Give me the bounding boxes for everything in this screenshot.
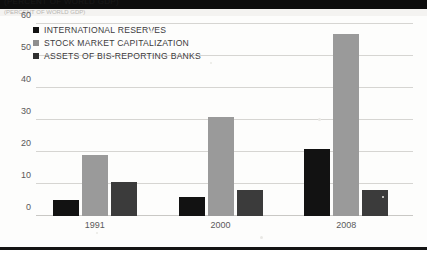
legend-item: INTERNATIONAL RESERVES (33, 24, 201, 35)
bar (304, 149, 330, 216)
scan-speckle (96, 232, 98, 234)
y-tick-label-30: 30 (21, 106, 31, 116)
y-tick-label-10: 10 (21, 170, 31, 180)
legend-swatch-icon (33, 53, 39, 59)
scan-speckle (260, 236, 263, 239)
legend-label: ASSETS OF BIS-REPORTING BANKS (44, 51, 201, 61)
legend-label: INTERNATIONAL RESERVES (44, 25, 166, 35)
legend-swatch-icon (33, 27, 39, 33)
legend-item: ASSETS OF BIS-REPORTING BANKS (33, 50, 201, 61)
legend-label: STOCK MARKET CAPITALIZATION (44, 38, 189, 48)
chart-figure: (PERCENT OF WORLD GDP) (PERCENT OF WORLD… (0, 0, 427, 254)
bar (333, 34, 359, 216)
chart-legend: INTERNATIONAL RESERVESSTOCK MARKET CAPIT… (33, 24, 201, 61)
bar (179, 197, 205, 216)
bar (237, 190, 263, 216)
x-tick-label-1991: 1991 (85, 220, 105, 230)
y-tick-label-60: 60 (21, 10, 31, 20)
figure-caption-partial: (PERCENT OF WORLD GDP) (0, 9, 427, 16)
figure-bottom-padding (0, 250, 427, 254)
y-tick-label-20: 20 (21, 138, 31, 148)
cut-off-title-band: (PERCENT OF WORLD GDP) (0, 0, 427, 9)
bar (111, 182, 137, 216)
bar (82, 155, 108, 216)
cut-off-title-text: (PERCENT OF WORLD GDP) (4, 0, 119, 6)
y-tick-label-0: 0 (26, 202, 31, 212)
y-tick-label-40: 40 (21, 74, 31, 84)
legend-item: STOCK MARKET CAPITALIZATION (33, 37, 201, 48)
bar (208, 117, 234, 216)
legend-swatch-icon (33, 40, 39, 46)
bar (362, 190, 388, 216)
bar (53, 200, 79, 216)
bar-group-2008 (304, 24, 388, 216)
x-tick-label-2000: 2000 (210, 220, 230, 230)
y-tick-label-50: 50 (21, 42, 31, 52)
x-tick-label-2008: 2008 (336, 220, 356, 230)
